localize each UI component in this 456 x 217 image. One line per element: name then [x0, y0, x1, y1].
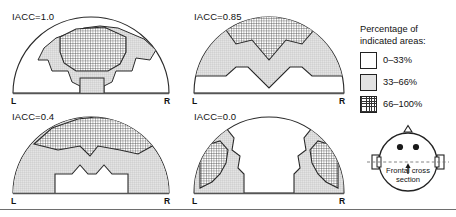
- panel-label-iacc-1-0: IACC=1.0: [12, 11, 54, 22]
- legend-item-0-33: 0–33%: [360, 51, 454, 69]
- panel-iacc-0-4: IACC=0.4: [0, 108, 186, 208]
- panel-iacc-1-0: IACC=1.0: [0, 8, 186, 108]
- head-caption-line1: Frontal cross: [372, 166, 444, 175]
- head-caption-line2: section: [372, 175, 444, 184]
- legend-label-66-100: 66–100%: [383, 99, 422, 109]
- head-top-view-icon: [366, 124, 450, 198]
- panel-label-iacc-0-4: IACC=0.4: [12, 111, 54, 122]
- bottom-rule: [0, 209, 456, 210]
- legend-item-33-66: 33–66%: [360, 73, 454, 91]
- panel-iacc-0-85: IACC=0.85: [186, 8, 358, 108]
- legend-label-33-66: 33–66%: [383, 77, 417, 87]
- axis-label-right-iacc-1-0: R: [164, 96, 170, 106]
- panel-label-iacc-0-85: IACC=0.85: [194, 11, 242, 22]
- axis-label-left-iacc-0-85: L: [192, 96, 197, 106]
- dome-chart-iacc-0-85: [186, 8, 358, 108]
- axis-label-right-iacc-0-85: R: [339, 96, 345, 106]
- iacc-figure: IACC=1.0: [0, 0, 456, 217]
- axis-label-left-iacc-1-0: L: [11, 96, 16, 106]
- legend-swatch-none-icon: [360, 52, 377, 69]
- legend-label-0-33: 0–33%: [383, 55, 412, 65]
- axis-label-right-iacc-0-4: R: [164, 196, 170, 206]
- panel-label-iacc-0-0: IACC=0.0: [194, 111, 236, 122]
- legend-swatch-high-icon: [360, 96, 377, 113]
- head-cross-section-diagram: [366, 124, 450, 198]
- legend-item-66-100: 66–100%: [360, 95, 454, 113]
- axis-label-left-iacc-0-0: L: [192, 196, 197, 206]
- head-diagram-caption: Frontal cross section: [372, 166, 444, 184]
- dome-chart-iacc-1-0: [0, 8, 186, 108]
- axis-label-left-iacc-0-4: L: [11, 196, 16, 206]
- panel-iacc-0-0: IACC=0.0: [186, 108, 358, 208]
- legend-title-line1: Percentage of: [360, 24, 454, 36]
- axis-label-right-iacc-0-0: R: [339, 196, 345, 206]
- dome-chart-iacc-0-0: [186, 108, 358, 208]
- dome-chart-iacc-0-4: [0, 108, 186, 208]
- legend-swatch-mid-icon: [360, 74, 377, 91]
- legend-title-line2: indicated areas:: [360, 36, 454, 48]
- legend: Percentage of indicated areas: 0–33% 33–…: [360, 24, 454, 113]
- legend-title: Percentage of indicated areas:: [360, 24, 454, 47]
